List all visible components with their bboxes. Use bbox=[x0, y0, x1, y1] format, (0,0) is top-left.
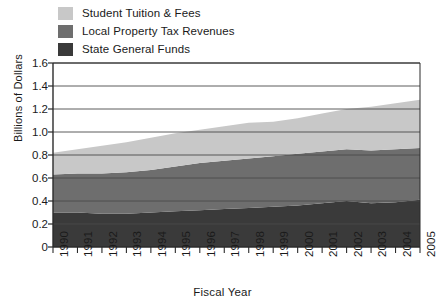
x-tick-label-8: 1998 bbox=[254, 231, 266, 257]
x-tick-label-1: 1991 bbox=[82, 231, 94, 257]
x-tick-label-4: 1994 bbox=[156, 231, 168, 257]
x-tick-label-0: 1990 bbox=[58, 231, 70, 257]
x-tick-label-13: 2003 bbox=[376, 231, 388, 257]
x-tick-label-2: 1992 bbox=[107, 231, 119, 257]
x-tick-label-3: 1993 bbox=[131, 231, 143, 257]
x-tick-label-15: 2005 bbox=[425, 231, 437, 257]
x-tick-label-6: 1996 bbox=[205, 231, 217, 257]
x-tick-label-12: 2002 bbox=[352, 231, 364, 257]
x-tick-label-10: 2000 bbox=[303, 231, 315, 257]
x-tick-label-7: 1997 bbox=[229, 231, 241, 257]
x-tick-label-14: 2004 bbox=[401, 231, 413, 257]
x-axis-title: Fiscal Year bbox=[0, 286, 445, 298]
x-tick-label-11: 2001 bbox=[327, 231, 339, 257]
x-tick-label-9: 1999 bbox=[278, 231, 290, 257]
stacked-area-chart: Student Tuition & Fees Local Property Ta… bbox=[0, 0, 445, 302]
x-tick-label-5: 1995 bbox=[180, 231, 192, 257]
